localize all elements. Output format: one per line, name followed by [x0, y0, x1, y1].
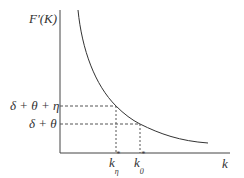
x-tick-k-eta: kη* — [109, 156, 119, 169]
x-tick-k-zero: k0* — [134, 156, 144, 169]
diagram-canvas — [0, 0, 244, 178]
k-zero-base: k — [134, 155, 140, 170]
k-eta-sub: η — [115, 167, 119, 176]
k-zero-sub: 0 — [140, 167, 144, 176]
k-eta-base: k — [109, 155, 115, 170]
x-axis-label: k — [222, 157, 228, 170]
k-zero-sup: * — [141, 151, 145, 159]
y-tick-delta-theta: δ + θ — [29, 117, 57, 130]
marginal-product-curve — [78, 10, 208, 143]
y-axis-label: F'(K) — [29, 12, 57, 25]
k-eta-sup: * — [116, 151, 120, 159]
y-tick-delta-theta-eta: δ + θ + η — [10, 99, 59, 112]
